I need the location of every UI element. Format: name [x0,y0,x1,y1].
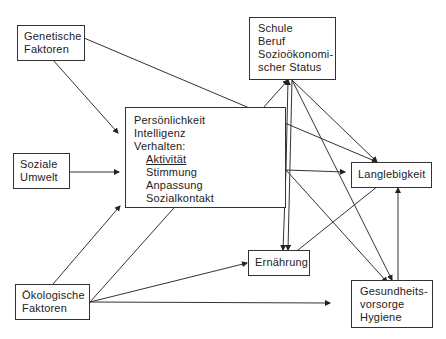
node-ecological-factors: Ökologische Faktoren [15,284,90,320]
node-personality: Persönlichkeit Intelligenz Verhalten: Ak… [125,107,286,208]
node-school-status: Schule Beruf Sozioökonomi- scher Status [249,17,336,80]
edge-school-longevity [292,80,377,162]
edge-nutrition-longevity [298,182,383,250]
edge-ecological-nutrition [90,263,247,302]
node-health-care: Gesundheits- vorsorge Hygiene [351,280,433,328]
node-ecological-line-2: Faktoren [22,302,83,315]
node-school-line-1: Schule [258,22,327,35]
node-personality-line-1: Persönlichkeit [134,114,277,127]
node-social-environment: Soziale Umwelt [13,153,70,189]
node-school-line-3: Sozioökonomi- [258,48,327,61]
edge-personality-school [286,80,288,170]
edge-ecological-health [90,302,330,303]
node-genetic-line-2: Faktoren [24,43,78,56]
node-ecological-line-1: Ökologische [22,289,83,302]
edge-school-nutrition [288,80,292,250]
diagram-canvas: Genetische Faktoren Soziale Umwelt Ökolo… [0,0,446,339]
node-personality-line-3: Verhalten: [134,140,277,153]
node-school-line-4: scher Status [258,61,327,74]
node-personality-sub-3: Anpassung [134,179,277,192]
node-social-line-1: Soziale [20,158,63,171]
node-nutrition-line-1: Ernährung [255,256,303,269]
node-longevity-line-1: Langlebigkeit [358,168,425,181]
node-health-line-3: Hygiene [360,311,424,324]
node-personality-sub-1: Aktivität [134,153,277,166]
node-genetic-factors: Genetische Faktoren [17,25,85,61]
edge-genetic-personality [53,60,118,133]
node-health-line-2: vorsorge [360,298,424,311]
node-school-line-2: Beruf [258,35,327,48]
edge-ecological-personality [53,206,120,284]
node-health-line-1: Gesundheits- [360,285,424,298]
node-social-line-2: Umwelt [20,171,63,184]
edge-personality-longevity [286,170,345,172]
node-personality-sub-4: Sozialkontakt [134,192,277,205]
node-longevity: Langlebigkeit [351,162,432,188]
node-nutrition: Ernährung [248,250,310,276]
node-personality-sub-2: Stimmung [134,166,277,179]
node-genetic-line-1: Genetische [24,30,78,43]
node-personality-line-2: Intelligenz [134,127,277,140]
